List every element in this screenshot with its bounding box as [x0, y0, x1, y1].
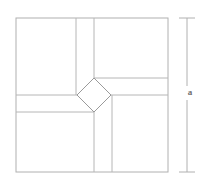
figure-canvas [0, 0, 207, 185]
center-rotated-square [77, 78, 111, 112]
geometry-figure: a [0, 0, 207, 185]
dimension-label-a: a [183, 88, 197, 97]
